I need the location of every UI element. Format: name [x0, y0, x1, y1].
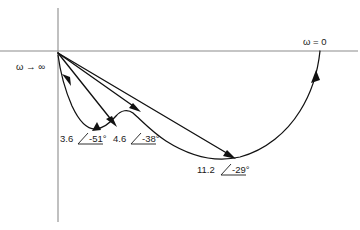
curve-arrow-local-bump — [92, 122, 101, 131]
phasor-2-angle-label: -38° — [142, 133, 160, 144]
angle-mark-1-slash — [78, 133, 88, 144]
angle-mark-2-slash — [131, 133, 141, 144]
omega-infinity-label: ω → ∞ — [16, 61, 45, 72]
angle-mark-3-slash — [221, 164, 231, 175]
phasor-3-angle-label: -29° — [232, 164, 250, 175]
phasor-1-magnitude-label: 3.6 — [60, 133, 73, 144]
curve-arrow-near-omega-zero — [311, 70, 320, 83]
plot-canvas: ω → ∞ ω = 0 3.6 -51° 4.6 -38° 11.2 -29° — [0, 0, 360, 230]
phasor-1-angle-label: -51° — [89, 133, 107, 144]
omega-zero-label: ω = 0 — [303, 36, 327, 47]
nyquist-plot-figure: ω → ∞ ω = 0 3.6 -51° 4.6 -38° 11.2 -29° — [0, 0, 360, 230]
curve-direction-arrows — [62, 70, 320, 131]
phasor-3-magnitude-label: 11.2 — [197, 164, 215, 175]
phasor-1-line — [58, 53, 113, 122]
phasor-1-vector — [58, 53, 117, 127]
phasor-2-magnitude-label: 4.6 — [113, 133, 126, 144]
